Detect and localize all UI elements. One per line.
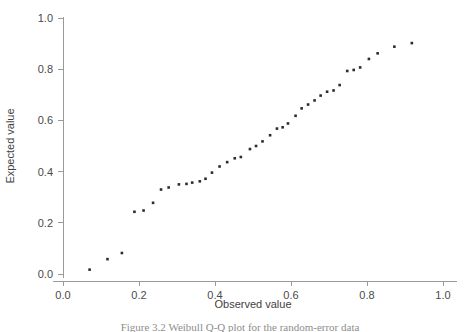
data-point <box>338 84 341 87</box>
data-point <box>160 188 163 191</box>
data-point <box>411 42 414 45</box>
data-point <box>352 69 355 72</box>
y-axis-tick-label: 1.0 <box>38 12 53 24</box>
data-point <box>121 252 124 255</box>
data-point <box>233 157 236 160</box>
data-point <box>269 134 272 137</box>
y-axis-tick-label: 0.6 <box>38 114 53 126</box>
data-point <box>240 156 243 159</box>
data-point <box>218 165 221 168</box>
y-axis-tick-label: 0.0 <box>38 268 53 280</box>
data-point <box>313 99 316 102</box>
y-axis-tick-label: 0.4 <box>38 166 53 178</box>
data-point <box>276 127 279 130</box>
data-point <box>199 180 202 183</box>
x-axis-tick-label: 1.0 <box>435 289 450 301</box>
data-point <box>133 210 136 213</box>
data-point <box>167 186 170 189</box>
data-point <box>300 107 303 110</box>
data-point <box>319 94 322 97</box>
qq-plot-chart: 0.00.20.40.60.81.00.00.20.40.60.81.0 Obs… <box>0 0 465 332</box>
x-axis-tick-label: 0.2 <box>131 289 146 301</box>
x-axis-title: Observed value <box>214 298 291 310</box>
y-axis-title: Expected value <box>4 108 16 183</box>
figure-container: 0.00.20.40.60.81.00.00.20.40.60.81.0 Obs… <box>0 0 465 332</box>
data-point <box>281 126 284 129</box>
data-point <box>346 70 349 73</box>
x-axis-tick-label: 0.0 <box>55 289 70 301</box>
data-point <box>255 145 258 148</box>
figure-caption: Figure 3.2 Weibull Q-Q plot for the rand… <box>121 321 360 332</box>
data-point <box>178 183 181 186</box>
y-axis-tick-label: 0.2 <box>38 217 53 229</box>
data-point <box>249 148 252 151</box>
y-axis-tick-label: 0.8 <box>38 63 53 75</box>
data-point <box>204 177 207 180</box>
data-point <box>261 140 264 143</box>
data-points-group <box>88 42 413 271</box>
data-point <box>88 268 91 271</box>
data-point <box>294 114 297 117</box>
data-point <box>332 89 335 92</box>
data-point <box>191 181 194 184</box>
data-point <box>152 202 155 205</box>
axes-group: 0.00.20.40.60.81.00.00.20.40.60.81.0 <box>38 12 457 301</box>
data-point <box>393 45 396 48</box>
data-point <box>226 161 229 164</box>
data-point <box>106 258 109 261</box>
data-point <box>376 52 379 55</box>
data-point <box>307 103 310 106</box>
data-point <box>185 183 188 186</box>
data-point <box>287 122 290 125</box>
figure-caption-group: Figure 3.2 Weibull Q-Q plot for the rand… <box>121 321 360 332</box>
x-axis-tick-label: 0.8 <box>359 289 374 301</box>
data-point <box>368 58 371 61</box>
data-point <box>211 171 214 174</box>
data-point <box>326 90 329 93</box>
data-point <box>359 66 362 69</box>
data-point <box>142 209 145 212</box>
